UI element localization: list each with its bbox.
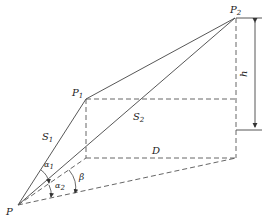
alpha1-arc <box>41 170 49 183</box>
label-alpha1: α1 <box>44 160 54 171</box>
label-S2: S2 <box>133 111 145 124</box>
label-P1: P1 <box>71 87 83 100</box>
label-alpha2: α2 <box>55 181 65 192</box>
label-P2: P2 <box>229 4 242 17</box>
beta-arc <box>69 170 76 193</box>
geometry-diagram: P P1 P2 S1 S2 D h α1 α2 β <box>0 0 267 224</box>
label-h: h <box>238 71 249 77</box>
diagram-svg: P P1 P2 S1 S2 D h α1 α2 β <box>0 0 267 224</box>
label-P: P <box>5 206 13 217</box>
line-P-P2 <box>18 18 235 205</box>
label-S1: S1 <box>42 131 53 144</box>
line-P1-P2 <box>86 18 235 99</box>
label-D: D <box>151 145 160 156</box>
label-beta: β <box>78 172 84 182</box>
alpha2-arc <box>49 185 51 197</box>
